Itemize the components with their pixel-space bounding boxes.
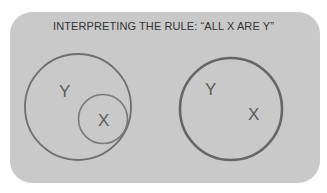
combined-circle-xy	[180, 58, 282, 160]
equal-sets-venn-diagram: Y X	[180, 58, 282, 160]
label-y: Y	[205, 80, 216, 99]
subset-venn-diagram: Y X	[25, 54, 131, 160]
label-y: Y	[59, 82, 70, 101]
venn-diagrams: Y X Y X	[0, 0, 327, 193]
outer-circle-y	[25, 54, 131, 160]
label-x: X	[98, 111, 109, 130]
label-x: X	[248, 105, 259, 124]
